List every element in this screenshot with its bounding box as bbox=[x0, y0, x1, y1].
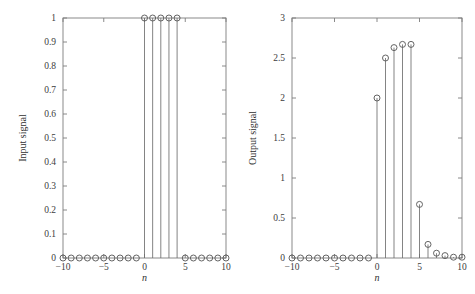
x-tick-label: 10 bbox=[221, 262, 231, 272]
y-axis-title: Output signal bbox=[247, 111, 258, 165]
input-signal-plot-panel: −10−5051000.10.20.30.40.50.60.70.80.91nI… bbox=[0, 0, 240, 294]
y-tick-label: 0.1 bbox=[44, 229, 56, 239]
y-tick-label: 0.7 bbox=[44, 85, 56, 95]
x-tick-label: −5 bbox=[329, 262, 339, 272]
x-tick-label: 0 bbox=[375, 262, 380, 272]
x-tick-label: 5 bbox=[183, 262, 188, 272]
y-tick-label: 0.6 bbox=[44, 109, 56, 119]
y-tick-label: 1 bbox=[51, 13, 56, 23]
y-tick-label: 0.9 bbox=[44, 37, 56, 47]
y-tick-label: 1.5 bbox=[273, 133, 285, 143]
output-signal-chart: −10−5051000.511.522.53nOutput signal bbox=[240, 0, 475, 294]
x-tick-label: −10 bbox=[56, 262, 71, 272]
y-tick-label: 3 bbox=[280, 13, 285, 23]
y-tick-label: 2 bbox=[280, 93, 285, 103]
output-signal-plot-panel: −10−5051000.511.522.53nOutput signal bbox=[240, 0, 475, 294]
x-tick-label: −10 bbox=[285, 262, 300, 272]
y-tick-label: 2.5 bbox=[273, 53, 285, 63]
y-tick-label: 1 bbox=[280, 173, 285, 183]
y-tick-label: 0.3 bbox=[44, 181, 56, 191]
x-tick-label: −5 bbox=[99, 262, 109, 272]
x-axis-title: n bbox=[142, 272, 147, 283]
y-tick-label: 0.4 bbox=[44, 157, 56, 167]
x-axis-title: n bbox=[375, 272, 380, 283]
x-tick-label: 0 bbox=[142, 262, 147, 272]
y-tick-label: 0.2 bbox=[44, 205, 56, 215]
y-tick-label: 0 bbox=[280, 253, 285, 263]
x-tick-label: 5 bbox=[417, 262, 422, 272]
y-axis-title: Input signal bbox=[17, 114, 28, 162]
y-tick-label: 0.8 bbox=[44, 61, 56, 71]
input-signal-chart: −10−5051000.10.20.30.40.50.60.70.80.91nI… bbox=[0, 0, 240, 294]
y-tick-label: 0 bbox=[51, 253, 56, 263]
figure-container: −10−5051000.10.20.30.40.50.60.70.80.91nI… bbox=[0, 0, 475, 294]
y-tick-label: 0.5 bbox=[44, 133, 56, 143]
y-tick-label: 0.5 bbox=[273, 213, 285, 223]
x-tick-label: 10 bbox=[457, 262, 467, 272]
